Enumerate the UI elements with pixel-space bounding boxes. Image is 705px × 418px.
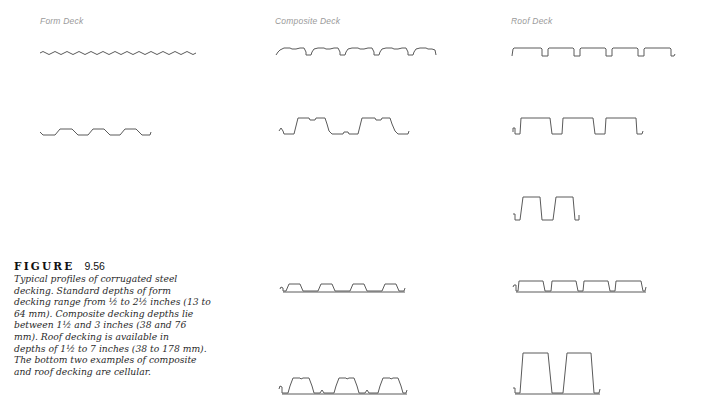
- caption-line: between 1½ and 3 inches (38 and 76: [14, 319, 244, 331]
- composite-deck-deep-rib-profile: [279, 118, 409, 134]
- figure-number: 9.56: [84, 260, 104, 272]
- caption-line: and roof decking are cellular.: [14, 366, 244, 378]
- composite-deck-cellular-deep-profile: [279, 378, 407, 394]
- caption-line: decking range from ½ to 2½ inches (13 to: [14, 296, 244, 308]
- composite-deck-embossed-ribbed-profile: [276, 48, 436, 55]
- caption-line: mm). Roof decking is available in: [14, 331, 244, 343]
- roof-deck-intermediate-rib-profile: [513, 118, 643, 134]
- composite-deck-cellular-shallow-profile: [280, 284, 405, 292]
- form-deck-trapezoidal-profile: [40, 129, 151, 135]
- figure-label: FIGURE: [14, 260, 74, 272]
- figure-caption: FIGURE 9.56 Typical profiles of corrugat…: [14, 260, 244, 377]
- caption-line: depths of 1½ to 7 inches (38 to 178 mm).: [14, 343, 244, 355]
- caption-line: decking. Standard depths of form: [14, 285, 244, 297]
- figure-heading: FIGURE 9.56: [14, 260, 244, 272]
- form-deck-corrugated-wave-profile: [40, 52, 196, 55]
- roof-deck-cellular-deep-profile: [513, 353, 600, 394]
- caption-line: Typical profiles of corrugated steel: [14, 273, 244, 285]
- roof-deck-narrow-rib-profile: [512, 48, 675, 56]
- roof-deck-cellular-shallow-profile: [513, 281, 646, 292]
- caption-line: 64 mm). Composite decking depths lie: [14, 308, 244, 320]
- roof-deck-deep-rib-profile: [513, 197, 579, 220]
- caption-text: Typical profiles of corrugated steel dec…: [14, 273, 244, 377]
- caption-line: The bottom two examples of composite: [14, 354, 244, 366]
